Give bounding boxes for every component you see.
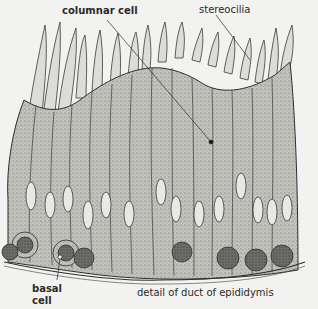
epididymis-diagram [0,0,318,309]
label-stereocilia: stereocilia [199,4,250,16]
label-basal-line2: cell [32,295,62,307]
label-basal-cell: basal cell [32,283,62,307]
label-basal-line1: basal [32,283,62,295]
figure-caption: detail of duct of epididymis [137,287,274,299]
label-columnar-cell: columnar cell [62,5,138,17]
